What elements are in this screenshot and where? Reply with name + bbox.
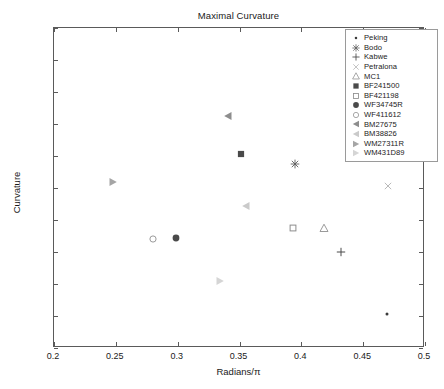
x-tick-label: 0.35: [230, 351, 248, 361]
legend-label: MC1: [364, 72, 380, 81]
legend-item-petralona[interactable]: Petralona: [348, 62, 435, 72]
legend-label: Bodo: [364, 43, 382, 52]
legend-item-peking[interactable]: Peking: [348, 33, 435, 43]
legend-item-bf421198[interactable]: BF421198: [348, 91, 435, 101]
legend-label: Kabwe: [364, 52, 387, 61]
legend-marker-open-circle-icon: [348, 110, 364, 120]
legend: PekingBodoKabwePetralonaMC1BF241500BF421…: [345, 29, 438, 162]
legend-item-bm27675[interactable]: BM27675: [348, 119, 435, 129]
y-axis-label: Curvature: [11, 153, 22, 233]
legend-marker-x-icon: [348, 62, 364, 72]
figure-canvas: Maximal Curvature 0.010.0120.0140.0160.0…: [0, 0, 444, 389]
legend-item-bodo[interactable]: Bodo: [348, 43, 435, 53]
marker-dot: [353, 35, 358, 40]
x-tick-label: 0.45: [353, 351, 371, 361]
marker-triangle-right: [352, 139, 361, 148]
legend-marker-triangle-left-icon: [348, 129, 364, 139]
legend-marker-triangle-left-icon: [348, 119, 364, 129]
legend-item-mc1[interactable]: MC1: [348, 71, 435, 81]
legend-marker-open-square-icon: [348, 91, 364, 101]
x-tick-label: 0.25: [106, 351, 124, 361]
legend-label: BM27675: [364, 120, 397, 129]
legend-label: Peking: [364, 33, 388, 42]
x-tick-label: 0.2: [47, 351, 60, 361]
legend-label: WM431D89: [364, 148, 405, 157]
legend-label: WF34745R: [364, 100, 403, 109]
marker-filled-square: [352, 82, 360, 90]
x-tick-label: 0.5: [418, 351, 431, 361]
marker-triangle-up: [352, 72, 361, 81]
legend-label: WF411612: [364, 110, 401, 119]
marker-open-square: [352, 92, 360, 100]
legend-item-wf411612[interactable]: WF411612: [348, 110, 435, 120]
x-tick-label: 0.3: [170, 351, 183, 361]
legend-label: BM38826: [364, 129, 397, 138]
legend-item-wf34745r[interactable]: WF34745R: [348, 100, 435, 110]
legend-item-wm431d89[interactable]: WM431D89: [348, 148, 435, 158]
marker-triangle-left: [352, 120, 361, 129]
marker-triangle-right: [352, 149, 361, 158]
legend-marker-triangle-right-icon: [348, 148, 364, 158]
legend-label: BF421198: [364, 91, 399, 100]
marker-x: [352, 63, 360, 71]
marker-open-circle: [352, 111, 360, 119]
legend-marker-filled-circle-icon: [348, 100, 364, 110]
legend-item-bf241500[interactable]: BF241500: [348, 81, 435, 91]
legend-marker-triangle-up-icon: [348, 71, 364, 81]
legend-marker-star-icon: [348, 43, 364, 53]
marker-plus: [352, 53, 361, 62]
x-axis-label: Radians/π: [53, 366, 424, 377]
x-tick-label: 0.4: [294, 351, 307, 361]
legend-label: Petralona: [364, 62, 397, 71]
legend-marker-dot-icon: [348, 33, 364, 43]
legend-marker-filled-square-icon: [348, 81, 364, 91]
legend-label: BF241500: [364, 81, 399, 90]
legend-marker-triangle-right-icon: [348, 139, 364, 149]
legend-item-bm38826[interactable]: BM38826: [348, 129, 435, 139]
legend-marker-plus-icon: [348, 52, 364, 62]
marker-star: [352, 43, 361, 52]
marker-filled-circle: [352, 101, 360, 109]
marker-triangle-left: [352, 130, 361, 139]
legend-item-kabwe[interactable]: Kabwe: [348, 52, 435, 62]
legend-label: WM27311R: [364, 139, 404, 148]
legend-item-wm27311r[interactable]: WM27311R: [348, 139, 435, 149]
